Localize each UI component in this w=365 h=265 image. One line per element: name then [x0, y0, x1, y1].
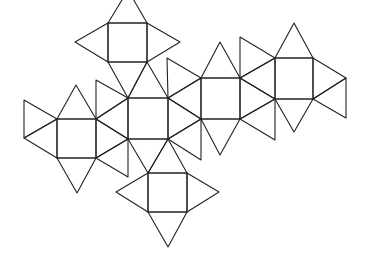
- triangle-face: [96, 139, 128, 177]
- triangle-face: [148, 212, 187, 247]
- triangle-face: [275, 23, 313, 58]
- triangle-face: [147, 23, 180, 62]
- square-face: [201, 78, 240, 119]
- triangle-face: [148, 139, 187, 173]
- triangle-face: [167, 58, 201, 98]
- triangle-face: [240, 37, 275, 78]
- triangle-face: [96, 80, 128, 119]
- triangle-face: [240, 58, 275, 99]
- triangle-face: [75, 23, 108, 62]
- square-face: [108, 23, 147, 62]
- triangle-face: [168, 78, 201, 119]
- triangle-face: [108, 62, 147, 98]
- polyhedron-net: [0, 0, 365, 265]
- triangle-face: [96, 98, 128, 139]
- triangle-face: [168, 98, 201, 139]
- triangle-face: [96, 119, 128, 158]
- triangle-face: [57, 158, 96, 193]
- triangle-face: [24, 100, 57, 138]
- triangle-face: [116, 173, 148, 212]
- square-face: [128, 98, 168, 139]
- triangle-face: [313, 78, 346, 118]
- triangle-face: [168, 119, 201, 160]
- triangle-face: [240, 78, 275, 119]
- square-face: [148, 173, 187, 212]
- triangle-face: [201, 42, 240, 78]
- triangle-faces: [24, 0, 346, 247]
- triangle-face: [108, 0, 147, 23]
- triangle-face: [128, 62, 168, 98]
- square-face: [57, 119, 96, 158]
- triangle-face: [187, 173, 219, 212]
- triangle-face: [240, 99, 275, 140]
- diagram-canvas: [0, 0, 365, 265]
- triangle-face: [275, 99, 313, 132]
- triangle-face: [313, 58, 346, 99]
- triangle-face: [24, 119, 57, 158]
- triangle-face: [201, 119, 240, 155]
- square-face: [275, 58, 313, 99]
- triangle-face: [57, 85, 96, 119]
- triangle-face: [128, 139, 168, 173]
